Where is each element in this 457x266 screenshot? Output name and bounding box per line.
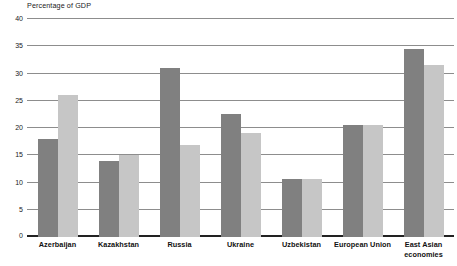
- y-axis-tick-label: 20: [15, 124, 23, 131]
- y-axis-tick-label: 30: [15, 69, 23, 76]
- bar-group: [38, 19, 78, 237]
- bar: [363, 125, 383, 237]
- bar: [180, 145, 200, 237]
- y-axis-tick-label: 5: [19, 205, 23, 212]
- x-axis-tick-label: East Asian economies: [387, 240, 457, 259]
- bar: [404, 49, 424, 237]
- bar: [241, 133, 261, 237]
- bar-series-container: [27, 19, 454, 237]
- bar: [221, 114, 241, 237]
- bar: [343, 125, 363, 237]
- y-axis-tick-label: 0: [19, 232, 23, 239]
- bar: [160, 68, 180, 237]
- bar: [99, 161, 119, 237]
- bar-group: [99, 19, 139, 237]
- bar-group: [282, 19, 322, 237]
- y-axis-tick-label: 10: [15, 178, 23, 185]
- bar: [424, 65, 444, 237]
- bar-group: [221, 19, 261, 237]
- y-axis-tick-label: 40: [15, 15, 23, 22]
- bar-group: [343, 19, 383, 237]
- bar: [38, 139, 58, 237]
- bar: [302, 179, 322, 237]
- y-axis-title: Percentage of GDP: [27, 1, 91, 10]
- bar: [119, 155, 139, 237]
- bar: [58, 95, 78, 237]
- bar-group: [404, 19, 444, 237]
- bar-group: [160, 19, 200, 237]
- y-axis-tick-label: 35: [15, 42, 23, 49]
- y-axis-tick-label: 25: [15, 96, 23, 103]
- y-axis-tick-label: 15: [15, 151, 23, 158]
- plot-area: 0510152025303540: [27, 19, 454, 237]
- bar-chart: Percentage of GDP 0510152025303540 Azerb…: [0, 0, 457, 266]
- x-axis-category-labels: AzerbaijanKazakhstanRussiaUkraineUzbekis…: [27, 240, 454, 266]
- bar: [282, 179, 302, 237]
